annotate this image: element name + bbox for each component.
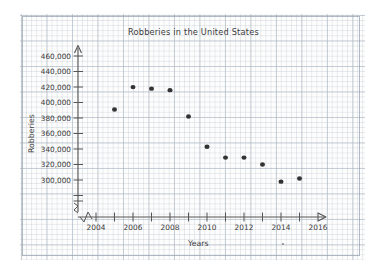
stray-mark-icon bbox=[282, 243, 284, 245]
data-point-2008 bbox=[168, 88, 173, 92]
x-tick-label-2016: 2016 bbox=[301, 223, 335, 232]
x-tick-label-2006: 2006 bbox=[116, 223, 150, 232]
y-tick-label-460000: 460,000 bbox=[29, 52, 71, 61]
y-tick-label-300000: 300,000 bbox=[29, 176, 71, 185]
x-axis-title: Years bbox=[188, 239, 209, 248]
x-tick-label-2008: 2008 bbox=[153, 223, 187, 232]
y-tick-label-420000: 420,000 bbox=[29, 83, 71, 92]
x-tick-label-2012: 2012 bbox=[227, 223, 261, 232]
data-point-2013 bbox=[260, 162, 265, 166]
y-tick-label-440000: 440,000 bbox=[29, 67, 71, 76]
x-axis bbox=[78, 213, 326, 221]
data-point-2012 bbox=[242, 155, 247, 159]
data-point-2005 bbox=[112, 107, 117, 111]
x-tick-label-2014: 2014 bbox=[264, 223, 298, 232]
y-axis bbox=[75, 46, 82, 213]
data-point-2009 bbox=[186, 114, 191, 118]
y-axis-break-icon bbox=[74, 203, 78, 213]
data-point-2010 bbox=[205, 145, 210, 149]
y-tick-label-400000: 400,000 bbox=[29, 98, 71, 107]
chart-screenshot: Robberies in the United States 460,000 4… bbox=[0, 0, 382, 273]
data-point-group bbox=[112, 85, 302, 184]
y-tick-label-320000: 320,000 bbox=[29, 160, 71, 169]
data-point-2015 bbox=[297, 176, 302, 180]
data-point-2006 bbox=[131, 85, 136, 89]
chart-title: Robberies in the United States bbox=[128, 27, 259, 37]
x-tick-label-2010: 2010 bbox=[190, 223, 224, 232]
data-point-2007 bbox=[149, 86, 154, 90]
data-point-2011 bbox=[223, 155, 228, 159]
data-point-2014 bbox=[279, 179, 284, 183]
y-axis-title: Robberies bbox=[27, 114, 36, 153]
x-tick-label-2004: 2004 bbox=[79, 223, 113, 232]
